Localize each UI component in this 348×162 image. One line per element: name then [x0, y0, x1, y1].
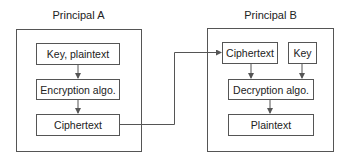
connector-arrows	[0, 0, 348, 162]
